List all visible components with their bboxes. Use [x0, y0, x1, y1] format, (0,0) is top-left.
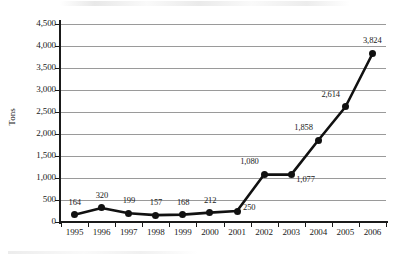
x-axis-tick-label: 2003 — [278, 227, 305, 237]
gridline — [61, 24, 386, 25]
data-point-label: 168 — [177, 197, 189, 207]
y-axis-tick-mark — [55, 200, 60, 201]
gridline — [61, 200, 386, 201]
gridline — [61, 156, 386, 157]
x-axis-tick-label: 1995 — [61, 227, 88, 237]
x-axis-tick-label: 1998 — [142, 227, 169, 237]
y-axis-tick-mark — [55, 178, 60, 179]
x-axis-tick-label: 2002 — [251, 227, 278, 237]
data-point-marker — [234, 208, 241, 215]
x-axis-tick-label: 1999 — [169, 227, 196, 237]
data-point-label: 199 — [123, 195, 135, 205]
data-point-marker — [288, 171, 295, 178]
x-axis-tick-labels: 1995199619971998199920002001200220032004… — [61, 227, 386, 243]
y-axis-tick-mark — [55, 156, 60, 157]
data-point-marker — [125, 210, 132, 217]
data-point-label: 1,858 — [294, 122, 313, 132]
data-point-label: 157 — [150, 197, 162, 207]
y-axis-tick-mark — [55, 68, 60, 69]
x-axis-tick-label: 2005 — [332, 227, 359, 237]
data-point-label: 250 — [243, 202, 255, 212]
y-axis-tick-label: 4,000 — [36, 40, 56, 50]
data-point-label: 212 — [204, 195, 216, 205]
y-axis-tick-label: 2,000 — [36, 128, 56, 138]
x-axis-tick-label: 2000 — [196, 227, 223, 237]
x-axis-tick-label: 1997 — [115, 227, 142, 237]
scan-artifact-top — [60, 1, 350, 6]
y-axis-line — [59, 20, 61, 224]
x-axis-tick-label: 1996 — [88, 227, 115, 237]
y-axis-tick-label: 2,500 — [36, 106, 56, 116]
data-point-marker — [152, 212, 159, 219]
y-axis-tick-mark — [55, 134, 60, 135]
plot-area — [61, 24, 386, 222]
y-axis-tick-label: 0 — [52, 216, 56, 226]
data-point-label: 320 — [96, 190, 108, 200]
gridline — [61, 134, 386, 135]
x-axis-tick-label: 2004 — [305, 227, 332, 237]
gridline — [61, 112, 386, 113]
y-axis-tick-label: 1,000 — [36, 172, 56, 182]
y-axis-tick-mark — [55, 24, 60, 25]
line-chart: Tons 05001,0001,5002,0002,5003,0003,5004… — [0, 0, 404, 258]
y-axis-tick-label: 1,500 — [36, 150, 56, 160]
x-axis-tick-label: 2006 — [359, 227, 386, 237]
y-axis-tick-mark — [55, 222, 60, 223]
y-axis-tick-mark — [55, 112, 60, 113]
gridline — [61, 178, 386, 179]
y-axis-tick-mark — [55, 90, 60, 91]
data-point-marker — [315, 137, 322, 144]
data-point-label: 3,824 — [363, 35, 382, 45]
x-axis-tick-label: 2001 — [224, 227, 251, 237]
y-axis-tick-label: 3,500 — [36, 62, 56, 72]
y-axis-tick-label: 4,500 — [36, 18, 56, 28]
y-axis-tick-mark — [55, 46, 60, 47]
data-point-label: 1,080 — [240, 156, 259, 166]
gridline — [61, 68, 386, 69]
x-axis-tick-mark — [386, 222, 387, 227]
y-axis-tick-label: 3,000 — [36, 84, 56, 94]
data-point-label: 1,077 — [296, 174, 315, 184]
data-point-label: 164 — [69, 197, 81, 207]
y-axis-tick-label: 500 — [43, 194, 56, 204]
data-point-label: 2,614 — [321, 89, 340, 99]
y-axis-tick-labels: 05001,0001,5002,0002,5003,0003,5004,0004… — [0, 0, 56, 258]
gridline — [61, 46, 386, 47]
data-point-marker — [261, 171, 268, 178]
